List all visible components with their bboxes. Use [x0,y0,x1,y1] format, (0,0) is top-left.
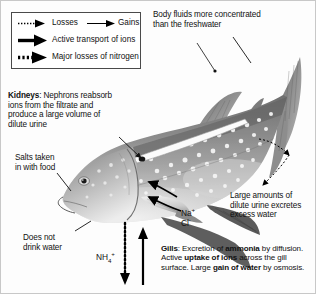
legend-row-nitrogen: Major losses of nitrogen [12,50,142,65]
gills-bold-ammonia: ammonia [225,244,259,253]
gills-bold-uptake: uptake of ions [184,253,237,262]
annotation-does-not-drink: Does not drink water [23,233,93,252]
ammonium-subscript: 4 [108,257,111,264]
thick-solid-arrow-icon [17,33,49,48]
fish-eye-icon [79,177,90,185]
legend-label-nitrogen: Major losses of nitrogen [52,52,139,61]
kidneys-colon: : [39,91,41,100]
legend-row-losses-gains: Losses Gains [12,16,142,31]
chloride-charge: - [189,216,191,223]
sodium-charge: + [192,206,196,213]
gills-seg4: by osmosis. [261,263,304,272]
ammonium-charge: + [111,250,115,257]
large-line1: Large amounts of [230,191,314,201]
annotation-salts: Salts taken in with food [15,153,91,172]
ammonium-symbol: NH [96,252,108,262]
salts-line2: in with food [15,163,91,173]
annotation-gills: Gills: Excretion of ammonia by diffusion… [161,244,313,272]
legend-row-active-transport: Active transport of ions [12,33,142,48]
gills-heading: Gills [161,244,178,253]
body-fluids-line2: than the freshwater [153,20,311,30]
salts-line1: Salts taken [15,153,91,163]
label-ammonium-ion: NH4+ [96,253,115,263]
large-line2: dilute urine excretes [230,201,314,211]
osmoregulation-diagram: Losses Gains Active transport of ions Ma… [0,0,316,294]
gills-seg1: Excretion of [180,244,225,253]
annotation-large-amounts: Large amounts of dilute urine excretes e… [230,191,314,220]
chloride-symbol: Cl [181,218,189,228]
label-chloride-ion: Cl- [181,219,191,229]
legend-label-active-transport: Active transport of ions [52,35,135,44]
kidneys-heading: Kidneys [8,91,39,100]
annotation-body-fluids: Body fluids more concentrated than the f… [153,10,311,29]
fine-dotted-arrow-icon [17,16,49,31]
thin-solid-arrow-icon [86,16,116,31]
gills-bold-gain: gain of water [213,263,261,272]
annotation-kidneys: Kidneys: Nephrons reabsorb ions from the… [8,91,120,130]
legend-label-losses: Losses [52,18,78,27]
large-line3: excess water [230,210,314,220]
drink-line1: Does not [23,233,93,243]
drink-line2: drink water [23,243,93,253]
legend-label-gains: Gains [118,18,139,27]
coarse-dotted-arrow-icon [17,50,49,65]
body-fluids-line1: Body fluids more concentrated [153,10,311,20]
legend-box: Losses Gains Active transport of ions Ma… [11,12,141,69]
